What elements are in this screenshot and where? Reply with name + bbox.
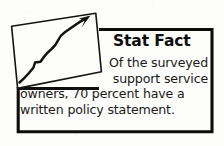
upward-trend-chart-icon [2,6,108,98]
stat-fact-sidebar: Stat Fact Of the surveyed support servic… [0,0,224,146]
